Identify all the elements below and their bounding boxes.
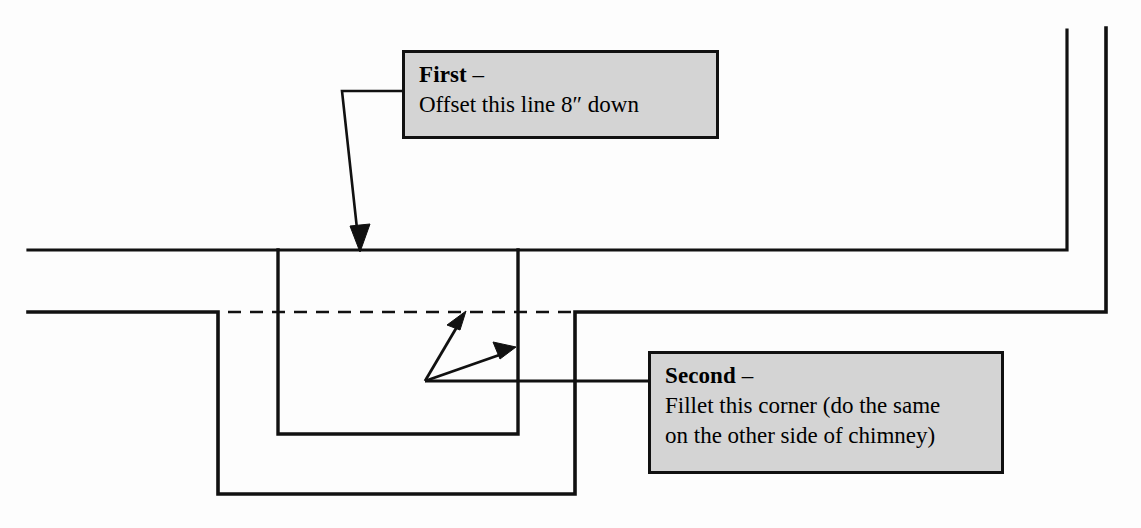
callout-second-line-2: on the other side of chimney) [665, 421, 1001, 451]
callout-box-first[interactable]: First – Offset this line 8″ down [402, 50, 719, 139]
callout-second-heading-dash: – [736, 363, 753, 388]
second-callout-arrow-upper-shaft [425, 320, 461, 381]
second-callout-arrow-lower-shaft [425, 353, 505, 381]
callout-first-heading: First – [419, 60, 716, 90]
callout-second-heading: Second – [665, 361, 1001, 391]
second-callout-arrowhead-upper [447, 311, 466, 330]
callout-second-line-1: Fillet this corner (do the same [665, 391, 1001, 421]
callout-box-second[interactable]: Second – Fillet this corner (do the same… [648, 351, 1004, 474]
first-callout-leader [342, 91, 403, 238]
callout-second-heading-text: Second [665, 363, 736, 388]
callout-first-line-1: Offset this line 8″ down [419, 90, 716, 120]
callout-first-heading-text: First [419, 62, 467, 87]
chimney-u-profile [278, 250, 518, 434]
first-callout-arrowhead [350, 224, 370, 252]
drawing-canvas: First – Offset this line 8″ down Second … [0, 0, 1141, 528]
callout-first-heading-dash: – [467, 62, 484, 87]
